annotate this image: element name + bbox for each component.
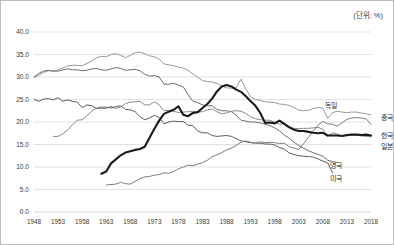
series-line-한국	[101, 85, 371, 174]
series-line-일본	[53, 101, 371, 137]
x-tick-label: 2003	[292, 218, 307, 225]
y-tick-label: 15.0	[16, 141, 29, 148]
series-label-일본: 일본	[381, 142, 394, 150]
x-tick-label: 2018	[364, 218, 379, 225]
x-tick-label: 1968	[123, 218, 138, 225]
x-axis-tick-labels: 1948195319581963196819731978198319881993…	[27, 218, 379, 225]
y-tick-label: 35.0	[16, 51, 29, 58]
x-tick-label: 1983	[195, 218, 210, 225]
series-label-한국: 한국	[381, 132, 394, 140]
x-tick-label: 1973	[147, 218, 162, 225]
x-tick-label: 1948	[27, 218, 42, 225]
series-label-영국: 영국	[330, 161, 343, 170]
y-tick-label: 25.0	[16, 96, 29, 103]
gridlines-group	[34, 32, 371, 212]
x-tick-label: 1988	[219, 218, 234, 225]
x-tick-label: 1963	[99, 218, 114, 225]
series-label-독일: 독일	[325, 101, 337, 110]
x-tick-label: 1998	[268, 218, 283, 225]
x-tick-label: 2008	[316, 218, 331, 225]
y-tick-label: 10.0	[16, 163, 29, 170]
plot-area: 0.05.010.015.020.025.030.035.040.0 19481…	[1, 1, 394, 245]
y-tick-label: 0.0	[20, 208, 29, 215]
series-label-중국: 중국	[381, 114, 394, 122]
series-label-미국: 미국	[330, 174, 343, 183]
x-tick-label: 1958	[75, 218, 90, 225]
y-tick-label: 40.0	[16, 28, 29, 35]
series-line-미국	[34, 98, 332, 173]
x-tick-label: 1953	[51, 218, 66, 225]
y-tick-label: 30.0	[16, 73, 29, 80]
x-tick-label: 2013	[340, 218, 355, 225]
y-tick-label: 20.0	[16, 118, 29, 125]
series-inline-labels: 독일중국한국일본영국미국	[325, 101, 393, 182]
chart-container: (단위: %) 0.05.010.015.020.025.030.035.040…	[0, 0, 394, 245]
y-tick-label: 5.0	[20, 186, 29, 193]
data-series-group	[34, 52, 371, 185]
x-tick-label: 1978	[171, 218, 186, 225]
line-chart-svg: 0.05.010.015.020.025.030.035.040.0 19481…	[1, 1, 394, 245]
y-axis-tick-labels: 0.05.010.015.020.025.030.035.040.0	[16, 28, 29, 215]
x-tick-label: 1993	[244, 218, 259, 225]
